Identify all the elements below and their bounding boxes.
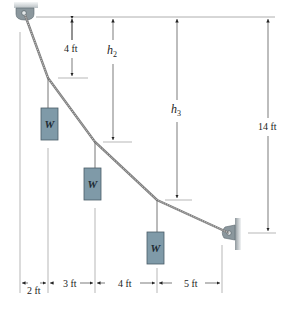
dim-h3: h3 <box>171 104 181 119</box>
cable-diagram <box>0 0 281 309</box>
weight-3-label: W <box>147 242 164 254</box>
dim-5ft: 5 ft <box>184 278 198 289</box>
right-pin-support <box>222 218 241 250</box>
dim-2ft: 2 ft <box>27 285 41 296</box>
dim-h2: h2 <box>107 45 117 60</box>
weight-1-label: W <box>41 118 58 130</box>
dim-h2-sub: 2 <box>113 50 117 59</box>
dim-4ft-vertical: 4 ft <box>64 43 78 54</box>
dim-3ft: 3 ft <box>63 278 77 289</box>
dim-14ft: 14 ft <box>258 121 277 132</box>
weight-2-label: W <box>84 178 101 190</box>
dim-4ft-horizontal: 4 ft <box>118 278 132 289</box>
dim-h3-sub: 3 <box>177 109 181 118</box>
